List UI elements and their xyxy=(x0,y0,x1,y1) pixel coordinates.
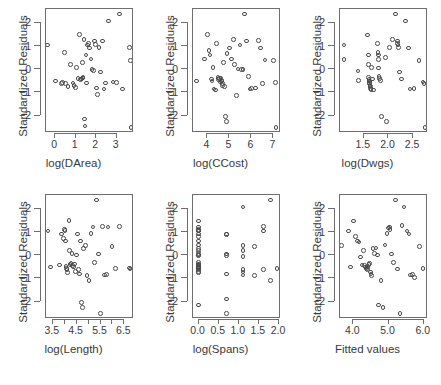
data-point xyxy=(128,267,132,272)
data-point xyxy=(53,79,58,84)
data-point xyxy=(263,58,268,63)
data-point xyxy=(87,278,92,283)
y-axis-tick: −1 xyxy=(328,91,334,92)
data-point xyxy=(379,278,384,283)
data-point xyxy=(390,37,395,42)
y-axis-line xyxy=(187,208,188,301)
data-point xyxy=(241,254,246,259)
data-point xyxy=(224,272,229,277)
data-point xyxy=(62,50,67,55)
x-axis-tick-label: 0 xyxy=(51,139,57,150)
data-point xyxy=(379,114,384,119)
data-point xyxy=(395,267,400,272)
data-point xyxy=(102,87,107,92)
data-point xyxy=(241,67,246,72)
y-axis-tick: −2 xyxy=(34,301,40,302)
data-point xyxy=(402,205,407,210)
data-points-layer xyxy=(193,195,279,317)
data-point xyxy=(421,266,426,271)
data-point xyxy=(94,86,99,91)
y-axis-tick: 2 xyxy=(34,208,40,209)
y-axis-title: Standardized Residuals xyxy=(17,192,29,332)
data-point xyxy=(234,93,239,98)
data-point xyxy=(73,85,78,90)
x-axis-title: log(Spans) xyxy=(147,343,294,355)
data-point xyxy=(396,45,401,50)
data-point xyxy=(385,231,390,236)
data-point xyxy=(196,219,201,224)
data-point xyxy=(383,243,388,248)
data-points-layer xyxy=(46,9,132,131)
data-point xyxy=(75,232,80,237)
data-point xyxy=(77,272,82,277)
y-axis-tick: 1 xyxy=(328,45,334,46)
plot-frame xyxy=(192,194,280,318)
data-point xyxy=(422,81,426,86)
data-point xyxy=(252,273,257,278)
data-point xyxy=(213,88,218,93)
data-point xyxy=(367,261,372,266)
data-point xyxy=(388,227,393,232)
data-point xyxy=(241,273,246,278)
data-point xyxy=(100,39,105,44)
data-point xyxy=(370,77,375,82)
data-point xyxy=(258,46,263,51)
data-point xyxy=(196,234,201,239)
data-point xyxy=(81,75,86,80)
y-axis-tick: −2 xyxy=(181,115,187,116)
data-point xyxy=(80,60,85,65)
y-axis-tick: 0 xyxy=(328,254,334,255)
y-axis-tick: 1 xyxy=(34,45,40,46)
y-axis-tick: 2 xyxy=(181,208,187,209)
data-point xyxy=(371,88,376,93)
data-point xyxy=(91,68,96,73)
data-point xyxy=(87,46,92,51)
data-point xyxy=(92,260,97,265)
data-point xyxy=(89,231,94,236)
data-point xyxy=(72,262,77,267)
y-axis-tick: 0 xyxy=(328,68,334,69)
data-point xyxy=(260,81,265,86)
x-axis-tick-label: 3.5 xyxy=(44,325,59,336)
data-points-layer xyxy=(46,195,132,317)
data-point xyxy=(241,243,246,248)
scatter-panel: 210−1−20123log(DArea)Standardized Residu… xyxy=(0,0,147,192)
data-point xyxy=(412,86,417,91)
data-point xyxy=(117,224,122,229)
y-axis-tick: 2 xyxy=(34,22,40,23)
x-axis-title: log(CCost) xyxy=(147,157,294,169)
data-point xyxy=(261,229,266,234)
data-point xyxy=(268,198,273,203)
data-point xyxy=(244,39,249,44)
data-point xyxy=(66,84,71,89)
y-axis-tick: −1 xyxy=(34,91,40,92)
data-point xyxy=(361,248,366,253)
x-axis-tick-label: 7 xyxy=(269,139,275,150)
data-point xyxy=(369,65,374,70)
data-point xyxy=(95,92,100,97)
data-point xyxy=(398,311,403,316)
data-point xyxy=(96,252,101,257)
data-point xyxy=(63,228,68,233)
data-point xyxy=(252,244,257,249)
data-point xyxy=(114,80,119,85)
x-axis-tick-label: 1.5 xyxy=(355,139,370,150)
data-point xyxy=(376,66,381,71)
plot-frame xyxy=(339,194,427,318)
x-axis-tick-label: 4 xyxy=(203,139,209,150)
y-axis-title: Standardized Residuals xyxy=(164,192,176,332)
data-point xyxy=(268,278,273,283)
data-point xyxy=(46,43,50,48)
data-point xyxy=(207,48,212,53)
data-point xyxy=(366,53,371,58)
data-point xyxy=(274,125,279,130)
data-point xyxy=(210,79,215,84)
data-points-layer xyxy=(193,9,279,131)
data-point xyxy=(106,19,111,24)
data-point xyxy=(346,229,351,234)
x-axis-tick-label: 6.5 xyxy=(116,325,131,336)
y-axis-line xyxy=(187,22,188,115)
x-axis-title: log(DArea) xyxy=(0,157,147,169)
data-point xyxy=(89,57,94,62)
y-axis-tick: 1 xyxy=(181,45,187,46)
